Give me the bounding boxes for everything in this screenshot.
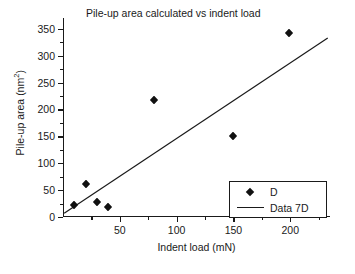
y-tick-label-250: 250 (37, 77, 55, 89)
x-tick-label-50: 50 (114, 224, 126, 236)
y-tick-label-350: 350 (37, 23, 55, 35)
legend-entry-d: D (230, 183, 326, 200)
legend-label-data-7d: Data 7D (270, 202, 309, 214)
x-tick-100 (177, 217, 178, 222)
legend-label-d: D (270, 186, 278, 198)
y-tick-label-200: 200 (37, 103, 55, 115)
y-tick-label-150: 150 (37, 130, 55, 142)
y-tick-label-0: 0 (49, 211, 55, 223)
y-axis-label-exponent: 2 (12, 74, 21, 78)
y-axis-label-tail: ) (14, 70, 26, 74)
x-tick-label-100: 100 (168, 224, 186, 236)
y-axis-label: Pile-up area (nm2) (12, 43, 26, 183)
y-tick-0 (58, 217, 63, 218)
y-axis-label-text: Pile-up area (nm (14, 78, 26, 156)
x-tick-label-200: 200 (281, 224, 299, 236)
x-tick-50 (120, 217, 121, 222)
x-axis-label: Indent load (mN) (63, 241, 330, 253)
x-tick-label-150: 150 (225, 224, 243, 236)
x-tick-minor-75 (148, 217, 149, 220)
x-tick-minor-125 (205, 217, 206, 220)
legend-diamond-icon (230, 189, 270, 195)
legend-entry-data-7d: Data 7D (230, 199, 326, 216)
y-tick-label-100: 100 (37, 157, 55, 169)
x-tick-minor-25 (91, 217, 92, 220)
chart-figure: Pile-up area calculated vs indent load P… (0, 0, 355, 274)
y-tick-label-50: 50 (43, 184, 55, 196)
legend-line-icon (230, 207, 270, 208)
y-tick-label-300: 300 (37, 50, 55, 62)
chart-legend: D Data 7D (229, 181, 327, 218)
